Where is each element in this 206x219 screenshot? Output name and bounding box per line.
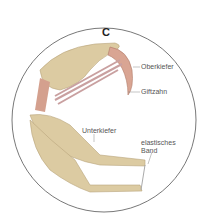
diagram-title: C (102, 26, 110, 38)
label-elastisches: elastisches (141, 139, 176, 147)
label-oberkiefer: Oberkiefer (141, 63, 174, 71)
label-band: Band (141, 147, 157, 155)
label-unterkiefer: Unterkiefer (82, 127, 116, 135)
label-giftzahn: Giftzahn (141, 88, 167, 96)
